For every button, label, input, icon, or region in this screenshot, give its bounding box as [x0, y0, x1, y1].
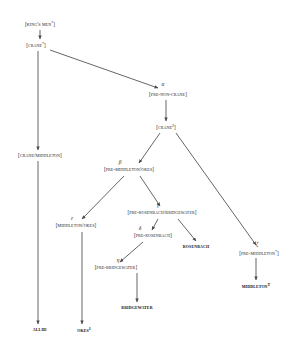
node-okes-1: Okes1 [77, 327, 91, 334]
stemma-diagram: [King's Men*][Crane*][Pre-Non-Crane][Cra… [0, 0, 289, 346]
node-allde: Allde [33, 327, 47, 332]
node-bracket-close: ] [152, 166, 154, 172]
node-middleton-okes: [Middleton/Okes] [56, 223, 97, 228]
node-crane-1: [Crane*] [26, 42, 46, 49]
edge-crane-1-to-pre-non-crane [50, 50, 158, 88]
edge-label-zeta: ζ [256, 242, 258, 247]
node-label: [Pre-Middleton [239, 250, 275, 256]
edges-group [38, 30, 256, 324]
node-pre-middleton-okes: [Pre-Middleton/Okes] [104, 167, 154, 172]
node-label: [Crane [26, 42, 42, 48]
node-pre-ros-bridge: [Pre-Rosenbach/Bridgewater] [127, 210, 196, 215]
node-middleton: MiddletonT [242, 283, 271, 290]
node-bracket-close: ] [53, 21, 55, 27]
node-pre-rosenbach: [Pre-Rosenbach] [134, 233, 172, 238]
node-bracket-close: ] [94, 222, 96, 228]
node-bridgewater: Bridgewater [121, 305, 152, 310]
node-label: Allde [33, 326, 47, 332]
node-crane-middleton: [Crane/Middleton] [18, 153, 62, 158]
node-crane-2: [Crane2] [156, 124, 176, 131]
edge-layer [0, 0, 289, 346]
node-label: [Middleton/Okes [56, 222, 95, 228]
edge-label-beta: β [119, 160, 122, 165]
node-bracket-close: ] [277, 250, 279, 256]
edge-label-delta: δ [139, 226, 142, 231]
node-rosenbach: Rosenbach [183, 244, 209, 249]
node-label: [Pre-Rosenbach [134, 232, 170, 238]
node-label: Middleton [242, 283, 268, 289]
edge-label-epsilon: ε [71, 216, 73, 221]
node-bracket-close: ] [174, 124, 176, 130]
edge-pre-middleton-okes-to-middleton-okes [82, 176, 124, 219]
node-pre-non-crane: [Pre-Non-Crane] [149, 92, 187, 97]
edge-label-alpha: α [162, 82, 165, 87]
node-bracket-close: ] [185, 91, 187, 97]
node-label: Rosenbach [183, 243, 209, 249]
edge-pre-ros-bridge-to-pre-rosenbach [152, 219, 158, 230]
node-superscript: T [268, 282, 271, 287]
edge-crane-2-to-pre-middleton-okes [139, 133, 160, 163]
edge-crane-2-to-pre-middleton [176, 133, 256, 245]
node-label: [Pre-Rosenbach/Bridgewater [127, 209, 194, 215]
node-label: [Pre-Bridgewater [95, 264, 136, 270]
node-label: Bridgewater [121, 304, 152, 310]
node-label: [King's Men [25, 21, 51, 27]
node-pre-bridgewater: [Pre-Bridgewater] [95, 265, 137, 270]
node-pre-middleton: [Pre-Middleton*] [239, 250, 279, 257]
node-kings-men: [King's Men*] [25, 21, 55, 28]
node-label: [Crane/Middleton [18, 152, 60, 158]
node-bracket-close: ] [195, 209, 197, 215]
node-bracket-close: ] [60, 152, 62, 158]
node-bracket-close: ] [170, 232, 172, 238]
edge-pre-rosenbach-to-pre-bridgewater [120, 242, 143, 262]
node-superscript: 1 [89, 326, 91, 331]
node-label: [Pre-Non-Crane [149, 91, 185, 97]
node-bracket-close: ] [44, 42, 46, 48]
node-label: Okes [77, 327, 89, 333]
node-label: [Pre-Middleton/Okes [104, 166, 152, 172]
edge-label-gamma: γ [157, 203, 159, 208]
edge-label-eta: η [117, 258, 120, 263]
edge-pre-ros-bridge-to-rosenbach [178, 219, 196, 241]
node-bracket-close: ] [135, 264, 137, 270]
node-label: [Crane [156, 124, 172, 130]
